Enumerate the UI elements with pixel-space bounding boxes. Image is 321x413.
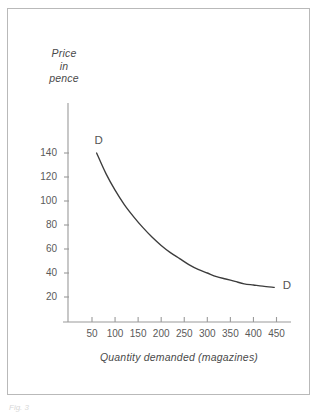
figure-caption: Fig. 3 [9, 403, 29, 412]
y-tick-label: 80 [31, 219, 57, 230]
y-tick-label: 120 [31, 171, 57, 182]
curve-label-start-d: D [95, 134, 103, 146]
y-tick-label: 40 [31, 267, 57, 278]
y-axis-label-line-3: pence [38, 72, 90, 85]
y-tick-label: 100 [31, 195, 57, 206]
demand-curve-line [97, 153, 275, 287]
x-tick-marks [92, 317, 277, 322]
curve-label-end-d: D [283, 279, 291, 291]
x-tick-label: 450 [262, 328, 292, 339]
y-tick-label: 60 [31, 243, 57, 254]
y-tick-label: 140 [31, 147, 57, 158]
y-axis-label: Price in pence [38, 47, 90, 85]
y-axis-label-line-1: Price [38, 47, 90, 60]
x-axis-label: Quantity demanded (magazines) [74, 351, 284, 363]
y-tick-label: 20 [31, 291, 57, 302]
y-axis-label-line-2: in [38, 60, 90, 73]
